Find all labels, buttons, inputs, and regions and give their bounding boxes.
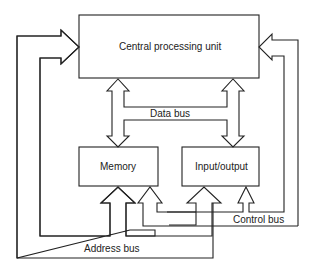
address-bus-label: Address bus [84, 243, 140, 254]
memory-label: Memory [100, 161, 136, 172]
address-bus-trunk [17, 30, 221, 258]
cpu-label: Central processing unit [119, 41, 221, 52]
control-bus-cpu-arrow [167, 34, 298, 226]
control-bus-memory-head [138, 187, 196, 226]
data-bus-label: Data bus [150, 108, 190, 119]
address-bus-cpu-arrow [17, 30, 155, 258]
io-label: Input/output [195, 161, 248, 172]
control-bus-label: Control bus [233, 214, 284, 225]
